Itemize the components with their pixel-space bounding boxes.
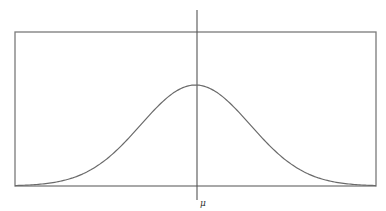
mean-label: μ — [200, 198, 206, 208]
plot-frame — [15, 32, 376, 186]
bell-curve — [15, 85, 376, 186]
normal-distribution-diagram: μ — [0, 0, 386, 211]
